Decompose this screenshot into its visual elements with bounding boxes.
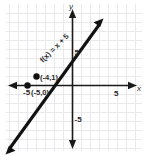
tick-label-y-negative-5: -5 xyxy=(75,115,83,124)
y-axis-down-arrow-icon xyxy=(69,140,76,149)
point-marker-a xyxy=(33,73,39,79)
function-line-lower-arrow-icon xyxy=(6,146,16,155)
coordinate-plane: 5 -5 5 -5 x y (-4,1) (-5,0) f(x) = x + 5 xyxy=(0,0,151,155)
tick-label-x-negative-5: -5 xyxy=(23,88,31,97)
grid-lines xyxy=(6,4,142,151)
axis-names: x y xyxy=(68,2,142,93)
plotted-points xyxy=(24,73,39,88)
point-label-a: (-4,1) xyxy=(40,73,58,82)
y-axis-label: y xyxy=(68,2,74,11)
point-label-b: (-5,0) xyxy=(31,88,49,97)
graph-screenshot: 5 -5 5 -5 x y (-4,1) (-5,0) f(x) = x + 5 xyxy=(0,0,151,155)
tick-label-y-positive-5: 5 xyxy=(75,48,80,57)
tick-label-x-positive-5: 5 xyxy=(114,89,119,98)
y-axis xyxy=(69,9,76,149)
